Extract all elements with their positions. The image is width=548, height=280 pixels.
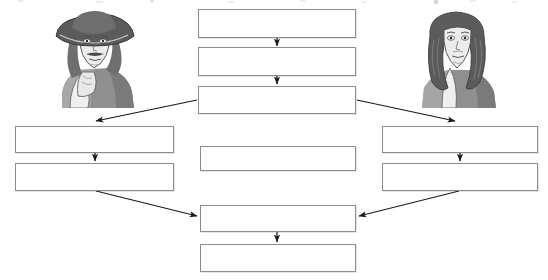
flow-node-left-2[interactable] (15, 163, 174, 191)
arrow-right2-bottom1 (359, 191, 459, 216)
flow-node-center-2[interactable] (198, 47, 356, 76)
arrow-left2-bottom1 (96, 191, 197, 216)
flowchart-canvas (0, 0, 548, 280)
flow-node-center-3[interactable] (198, 86, 356, 114)
scan-artifact-strip (0, 0, 548, 5)
portrait-scientist-right (408, 6, 508, 108)
flow-node-middle-isolated[interactable] (200, 146, 356, 171)
flow-node-right-1[interactable] (382, 126, 538, 153)
flow-node-center-1[interactable] (198, 9, 356, 38)
flow-node-bottom-1[interactable] (200, 205, 356, 232)
flow-node-left-1[interactable] (15, 126, 174, 153)
flow-node-bottom-2[interactable] (200, 244, 356, 272)
portrait-scientist-left (42, 6, 146, 108)
flow-node-right-2[interactable] (382, 163, 538, 191)
